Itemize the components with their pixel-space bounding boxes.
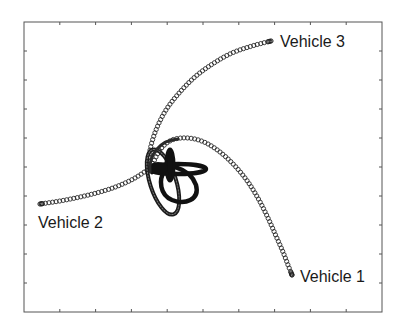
trajectory-chart: Vehicle 3 Vehicle 2 Vehicle 1: [0, 0, 402, 336]
chart-svg: [0, 0, 402, 336]
vehicle-2-label: Vehicle 2: [38, 215, 103, 231]
vehicle-1-label: Vehicle 1: [300, 269, 365, 285]
trajectory-vehicle-3: [146, 39, 273, 170]
trajectory-vehicle-2: [38, 166, 152, 206]
central-loop-tangle: [140, 139, 206, 218]
vehicle-3-label: Vehicle 3: [280, 34, 345, 50]
